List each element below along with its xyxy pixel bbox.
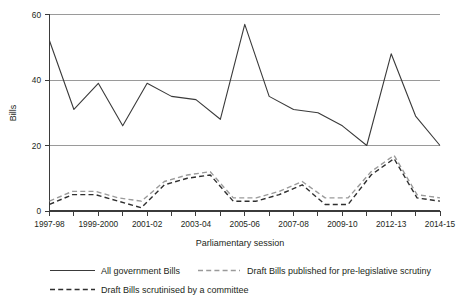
x-tick-label-5: 2007-08 (278, 219, 309, 229)
series-draft-bills-published (50, 155, 441, 201)
gridlines (49, 15, 440, 146)
x-tick-label-0: 1997-98 (34, 219, 65, 229)
axes (49, 14, 440, 211)
x-tick-label-8: 2014-15 (425, 219, 456, 229)
y-axis-title: Bills (8, 104, 18, 121)
x-tick-labels: 1997-981999-20002001-022003-042005-06200… (34, 219, 455, 229)
series-all-government-bills (50, 24, 441, 145)
x-tick-label-7: 2012-13 (376, 219, 407, 229)
series-layer (50, 24, 441, 207)
y-tickmarks (45, 15, 50, 212)
x-tick-label-2: 2001-02 (132, 219, 163, 229)
x-axis-title: Parliamentary session (196, 238, 285, 248)
y-tick-label-40: 40 (32, 75, 42, 85)
x-tick-label-4: 2005-06 (230, 219, 261, 229)
legend-label-1: Draft Bills published for pre-legislativ… (247, 266, 432, 276)
x-tick-label-1: 1999-2000 (78, 219, 118, 229)
legend-label-0: All government Bills (101, 266, 181, 276)
legend-label-2: Draft Bills scrutinised by a committee (101, 285, 249, 295)
x-tickmarks (50, 211, 441, 216)
y-tick-label-60: 60 (32, 10, 42, 20)
x-tick-label-6: 2009-10 (327, 219, 358, 229)
line-chart: 60 40 20 0 Bills 1997-981999-20002001-02… (0, 0, 471, 305)
chart-legend: All government Bills Draft Bills publish… (50, 266, 432, 295)
y-tick-label-20: 20 (32, 141, 42, 151)
chart-container: 60 40 20 0 Bills 1997-981999-20002001-02… (0, 0, 471, 305)
y-tick-label-0: 0 (36, 206, 41, 216)
x-tick-label-3: 2003-04 (181, 219, 212, 229)
series-draft-bills-scrutinised (50, 159, 441, 208)
